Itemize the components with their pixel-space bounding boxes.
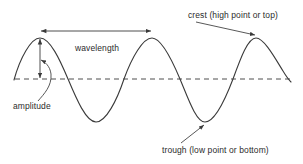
trough-label: trough (low point or bottom) — [162, 146, 269, 155]
wavelength-label: wavelength — [75, 44, 119, 53]
crest-leader-line — [196, 22, 255, 35]
wave-diagram-canvas — [0, 0, 303, 164]
wave-diagram: wavelength amplitude crest (high point o… — [0, 0, 303, 164]
amplitude-label: amplitude — [13, 102, 51, 111]
crest-label: crest (high point or top) — [188, 11, 278, 20]
trough-leader-line — [181, 125, 204, 143]
sine-wave-curve — [14, 38, 291, 122]
